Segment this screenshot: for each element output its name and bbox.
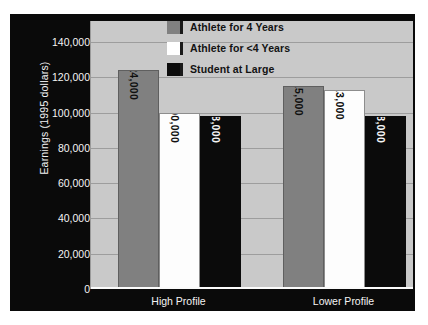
y-axis-tick-label: 100,000 bbox=[24, 108, 90, 118]
bar[interactable]: $100,000 bbox=[159, 113, 200, 289]
legend-swatch-icon bbox=[167, 21, 183, 34]
chart-frame: Earnings (1995 dollars) 140,000120,00010… bbox=[10, 14, 415, 311]
y-axis-tick-label: 120,000 bbox=[24, 72, 90, 82]
y-axis-tick-labels: 140,000120,000100,00080,00060,00040,0002… bbox=[24, 14, 90, 311]
legend-item[interactable]: Student at Large bbox=[167, 60, 317, 78]
y-axis-tick-label: 0 bbox=[24, 284, 90, 294]
x-axis-category-label: Lower Profile bbox=[284, 293, 404, 309]
legend-item[interactable]: Athlete for <4 Years bbox=[167, 39, 317, 57]
bar-value-label: $98,000 bbox=[210, 116, 221, 143]
bar[interactable]: $98,000 bbox=[200, 116, 241, 289]
bar[interactable]: $115,000 bbox=[283, 86, 324, 289]
y-axis-tick-label: 60,000 bbox=[24, 178, 90, 188]
legend-label: Athlete for <4 Years bbox=[190, 42, 290, 54]
legend-swatch-icon bbox=[167, 42, 183, 55]
legend-swatch-icon bbox=[167, 63, 183, 76]
bar-value-label: $98,000 bbox=[375, 116, 386, 143]
chart-legend: Athlete for 4 YearsAthlete for <4 YearsS… bbox=[167, 18, 317, 81]
x-axis-category-band: High ProfileLower Profile bbox=[90, 291, 413, 311]
bar[interactable]: $124,000 bbox=[118, 70, 159, 289]
bar-value-label: $124,000 bbox=[128, 70, 139, 100]
y-axis-tick-label: 40,000 bbox=[24, 213, 90, 223]
bar[interactable]: $98,000 bbox=[365, 116, 406, 289]
bar-value-label: $100,000 bbox=[169, 113, 180, 143]
y-axis-tick-label: 20,000 bbox=[24, 249, 90, 259]
axis-baseline bbox=[91, 287, 413, 289]
y-axis-tick-label: 80,000 bbox=[24, 143, 90, 153]
bar-value-label: $113,000 bbox=[334, 90, 345, 120]
y-axis-tick-label: 140,000 bbox=[24, 37, 90, 47]
legend-label: Student at Large bbox=[190, 63, 274, 75]
bar-value-label: $115,000 bbox=[293, 86, 304, 116]
bar[interactable]: $113,000 bbox=[324, 90, 365, 289]
legend-label: Athlete for 4 Years bbox=[190, 21, 284, 33]
x-axis-category-label: High Profile bbox=[119, 293, 239, 309]
legend-item[interactable]: Athlete for 4 Years bbox=[167, 18, 317, 36]
